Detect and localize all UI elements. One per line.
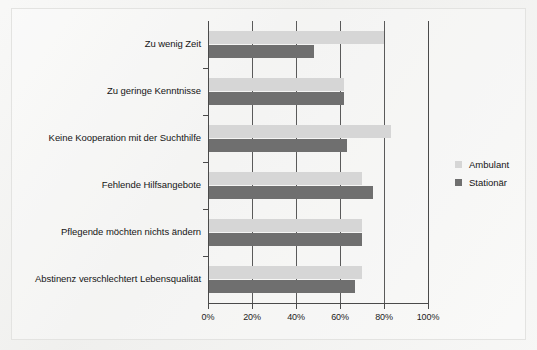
legend-swatch-ambulant xyxy=(455,161,462,168)
x-axis-tick-label: 100% xyxy=(417,312,440,322)
x-axis-tick-label: 80% xyxy=(375,312,393,322)
category-label: Keine Kooperation mit der Suchthilfe xyxy=(49,133,201,143)
x-axis-tick xyxy=(428,303,429,309)
plot-right-border xyxy=(428,21,429,304)
category-label: Zu geringe Kenntnisse xyxy=(107,86,201,96)
category-axis-labels: Zu wenig ZeitZu geringe KenntnisseKeine … xyxy=(0,0,201,350)
gridline-60% xyxy=(340,21,341,303)
x-axis-tick-label: 60% xyxy=(331,312,349,322)
legend-item-stationaer: Stationär xyxy=(455,173,533,191)
bar-stationaer xyxy=(208,233,362,246)
gridline-80% xyxy=(384,21,385,303)
category-label: Zu wenig Zeit xyxy=(145,39,201,49)
x-axis-line xyxy=(208,303,429,304)
bar-stationaer xyxy=(208,45,314,58)
x-axis-tick xyxy=(340,303,341,309)
x-axis-tick-label: 0% xyxy=(202,312,215,322)
bar-ambulant xyxy=(208,219,362,232)
bar-stationaer xyxy=(208,92,344,105)
legend-item-ambulant: Ambulant xyxy=(455,155,533,173)
x-axis-tick-label: 20% xyxy=(243,312,261,322)
legend-label-ambulant: Ambulant xyxy=(469,159,509,170)
bar-stationaer xyxy=(208,280,355,293)
x-axis-tick xyxy=(296,303,297,309)
category-label: Pflegende möchten nichts ändern xyxy=(61,227,201,237)
x-axis-tick xyxy=(208,303,209,309)
gridline-40% xyxy=(296,21,297,303)
y-axis-line xyxy=(208,21,209,304)
bar-stationaer xyxy=(208,139,347,152)
chart-legend: Ambulant Stationär xyxy=(455,155,533,191)
bar-ambulant xyxy=(208,78,344,91)
bar-stationaer xyxy=(208,186,373,199)
x-axis-tick xyxy=(384,303,385,309)
x-axis-tick xyxy=(252,303,253,309)
category-label: Fehlende Hilfsangebote xyxy=(102,180,201,190)
chart-figure: Zu wenig ZeitZu geringe KenntnisseKeine … xyxy=(0,0,537,350)
legend-swatch-stationaer xyxy=(455,179,462,186)
x-axis-tick-label: 40% xyxy=(287,312,305,322)
legend-label-stationaer: Stationär xyxy=(469,177,507,188)
bar-ambulant xyxy=(208,31,384,44)
bar-ambulant xyxy=(208,266,362,279)
category-label: Abstinenz verschlechtert Lebensqualität xyxy=(35,274,201,284)
bar-ambulant xyxy=(208,172,362,185)
gridline-20% xyxy=(252,21,253,303)
bar-ambulant xyxy=(208,125,391,138)
